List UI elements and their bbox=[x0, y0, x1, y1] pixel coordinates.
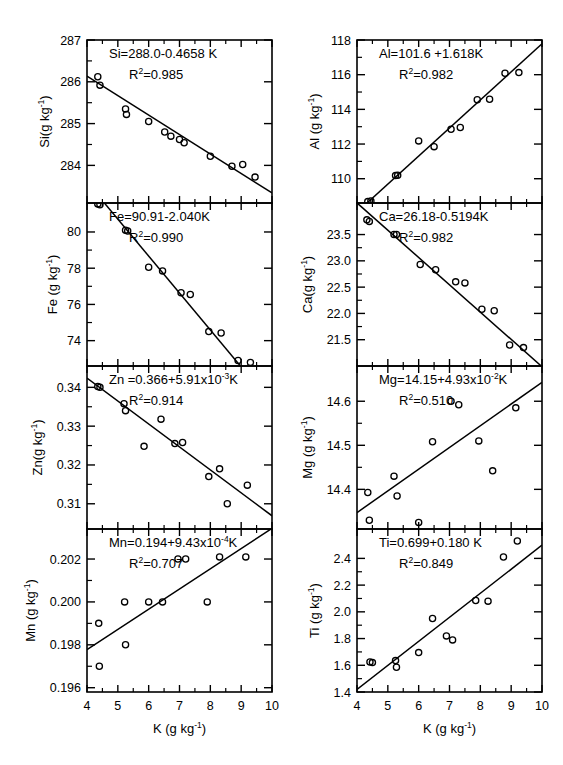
data-point bbox=[158, 416, 164, 422]
xtick-label: 7 bbox=[446, 699, 453, 713]
data-point bbox=[490, 468, 496, 474]
xtick-label: 5 bbox=[384, 699, 391, 713]
y-axis-title-ti: Ti (g kg-1) bbox=[306, 583, 322, 638]
data-point bbox=[431, 144, 437, 150]
ytick-label-fe: 74 bbox=[67, 334, 81, 348]
data-point bbox=[122, 599, 128, 605]
ytick-label-si: 285 bbox=[60, 117, 81, 131]
data-point bbox=[216, 466, 222, 472]
data-point bbox=[486, 96, 492, 102]
ytick-label-mn: 0.200 bbox=[50, 595, 81, 609]
r-squared-label-ca: R2=0.982 bbox=[399, 229, 453, 245]
ytick-label-al: 112 bbox=[331, 138, 351, 152]
equation-label-si: Si=288.0-0.4658 K bbox=[109, 46, 217, 61]
regression-figure: 284285286287Si=288.0-0.4658 KR2=0.985Si(… bbox=[0, 0, 563, 765]
data-point bbox=[500, 554, 506, 560]
ytick-label-si: 287 bbox=[60, 34, 81, 48]
ytick-label-al: 114 bbox=[331, 103, 351, 117]
equation-label-zn: Zn =0.366+5.91x10-3K bbox=[109, 371, 238, 387]
y-axis-title-zn: Zn(g kg-1) bbox=[29, 420, 45, 476]
data-point bbox=[491, 308, 497, 314]
ytick-label-ti: 1.6 bbox=[334, 659, 351, 673]
equation-label-ca: Ca=26.18-0.5194K bbox=[379, 209, 489, 224]
x-axis-col-1: 45678910K (g kg-1) bbox=[354, 699, 549, 736]
ytick-label-ca: 23.0 bbox=[327, 254, 351, 268]
data-point bbox=[240, 161, 246, 167]
data-point bbox=[96, 620, 102, 626]
ytick-label-ti: 2.0 bbox=[334, 605, 351, 619]
y-axis-title-mn: Mn (g kg-1) bbox=[22, 579, 38, 641]
xtick-label: 6 bbox=[415, 699, 422, 713]
equation-label-ti: Ti=0.699+0.180 K bbox=[379, 535, 482, 550]
ytick-label-si: 286 bbox=[60, 75, 81, 89]
ytick-label-zn: 0.32 bbox=[57, 458, 81, 472]
y-axis-title-si: Si(g kg-1) bbox=[36, 95, 52, 147]
equation-label-al: Al=101.6 +1.618K bbox=[379, 46, 483, 61]
r-squared-label-mn: R2=0.707 bbox=[129, 555, 183, 571]
y-axis-title-al: Al (g kg-1) bbox=[306, 94, 322, 150]
xtick-label: 8 bbox=[477, 699, 484, 713]
ytick-label-mg: 14.6 bbox=[327, 395, 351, 409]
x-axis-title: K (g kg-1) bbox=[153, 720, 206, 736]
ytick-label-fe: 76 bbox=[67, 298, 81, 312]
r-squared-label-si: R2=0.985 bbox=[129, 66, 183, 82]
data-point bbox=[95, 74, 101, 80]
xtick-label: 9 bbox=[238, 699, 245, 713]
ytick-label-fe: 80 bbox=[67, 225, 81, 239]
r-squared-label-mg: R2=0.510 bbox=[399, 392, 453, 408]
equation-label-fe: Fe=90.91-2.040K bbox=[109, 209, 210, 224]
data-point bbox=[473, 597, 479, 603]
panel-ca: 21.522.022.523.023.5Ca=26.18-0.5194KR2=0… bbox=[299, 203, 542, 367]
ytick-label-al: 110 bbox=[331, 172, 351, 186]
data-point bbox=[429, 439, 435, 445]
data-point bbox=[393, 664, 399, 670]
data-point bbox=[122, 642, 128, 648]
xtick-label: 4 bbox=[84, 699, 91, 713]
ytick-label-ca: 21.5 bbox=[327, 333, 351, 347]
data-point bbox=[146, 599, 152, 605]
data-point bbox=[507, 342, 513, 348]
xtick-label: 10 bbox=[265, 699, 279, 713]
panel-content-si bbox=[87, 74, 272, 193]
y-axis-title-mg: Mg (g kg-1) bbox=[299, 416, 315, 478]
data-point bbox=[141, 443, 147, 449]
y-axis-title-fe: Fe (g kg-1) bbox=[44, 255, 60, 315]
ytick-label-al: 118 bbox=[331, 34, 351, 48]
panel-si: 284285286287Si=288.0-0.4658 KR2=0.985Si(… bbox=[36, 34, 272, 204]
data-point bbox=[366, 517, 372, 523]
data-point bbox=[243, 554, 249, 560]
data-point bbox=[122, 408, 128, 414]
data-point bbox=[391, 473, 397, 479]
panel-ti: 1.41.61.82.02.22.4Ti=0.699+0.180 KR2=0.8… bbox=[306, 529, 542, 700]
panel-al: 110112114116118Al=101.6 +1.618KR2=0.982A… bbox=[306, 34, 542, 213]
ytick-label-zn: 0.31 bbox=[57, 497, 81, 511]
equation-label-mn: Mn=0.194+9.43x10-4K bbox=[109, 534, 238, 550]
regression-line-si bbox=[87, 76, 272, 193]
data-point bbox=[247, 359, 253, 365]
ytick-label-mg: 14.4 bbox=[327, 483, 351, 497]
data-point bbox=[146, 118, 152, 124]
panel-content-ca bbox=[357, 203, 542, 367]
data-point bbox=[457, 124, 463, 130]
data-point bbox=[476, 438, 482, 444]
data-point bbox=[96, 663, 102, 669]
data-point bbox=[179, 439, 185, 445]
data-point bbox=[394, 493, 400, 499]
ytick-label-ca: 22.5 bbox=[327, 281, 351, 295]
ytick-label-zn: 0.33 bbox=[57, 420, 81, 434]
data-point bbox=[502, 70, 508, 76]
r-squared-label-ti: R2=0.849 bbox=[399, 555, 453, 571]
x-axis-col-0: 45678910K (g kg-1) bbox=[84, 699, 279, 736]
data-point bbox=[162, 129, 168, 135]
panel-mn: 0.1960.1980.2000.202Mn=0.194+9.43x10-4KR… bbox=[22, 528, 272, 695]
ytick-label-zn: 0.34 bbox=[57, 381, 81, 395]
x-axis-title: K (g kg-1) bbox=[423, 720, 476, 736]
xtick-label: 7 bbox=[176, 699, 183, 713]
xtick-label: 10 bbox=[535, 699, 549, 713]
regression-line-ca bbox=[357, 203, 542, 367]
data-point bbox=[252, 174, 258, 180]
equation-label-mg: Mg=14.15+4.93x10-2K bbox=[379, 371, 508, 387]
r-squared-label-zn: R2=0.914 bbox=[129, 392, 183, 408]
xtick-label: 6 bbox=[145, 699, 152, 713]
y-axis-title-ca: Ca(g kg-1) bbox=[299, 256, 315, 313]
